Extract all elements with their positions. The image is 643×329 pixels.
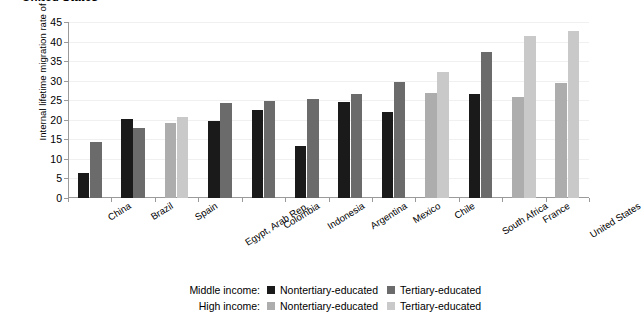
y-tick-mark [64,159,68,160]
gridline [69,61,589,62]
legend-row: Middle income:Nontertiary-educatedTertia… [0,282,599,298]
x-tick-label: China [106,200,133,223]
bar-nontertiary [425,93,437,198]
gridline [69,178,589,179]
bar-tertiary [90,142,102,198]
y-tick-label: 30 [50,75,62,86]
legend-swatch-icon [387,286,395,294]
y-tick-label: 40 [50,36,62,47]
gridline [69,81,589,82]
bar-tertiary [351,94,363,198]
legend-item[interactable]: Tertiary-educated [387,285,481,296]
gridline [69,159,589,160]
y-tick-mark [64,178,68,179]
bar-tertiary [524,36,536,198]
bar-tertiary [437,72,449,198]
bar-nontertiary [338,102,350,198]
bar-nontertiary [382,112,394,198]
x-tick-label: Indonesia [325,200,366,231]
y-tick-label: 5 [56,173,62,184]
legend-item[interactable]: Nontertiary-educated [267,301,378,312]
y-tick-label: 20 [50,115,62,126]
x-tick-label: Mexico [410,200,442,225]
y-tick-mark [64,100,68,101]
x-tick-label: United States [588,200,643,240]
bar-tertiary [568,31,580,198]
bar-tertiary [394,82,406,198]
y-tick-label: 0 [56,193,62,204]
legend-group-label: High income: [168,300,260,312]
x-tick-label: Argentina [368,200,409,231]
legend-item-label: Tertiary-educated [400,301,481,312]
bar-nontertiary [165,123,177,198]
y-tick-mark [64,22,68,23]
bar-nontertiary [121,119,133,198]
bar-tertiary [177,117,189,198]
legend-item-label: Nontertiary-educated [280,301,378,312]
y-tick-mark [64,139,68,140]
x-tick-label: Brazil [149,200,175,222]
bar-nontertiary [208,121,220,198]
bar-tertiary [307,99,319,198]
y-axis-line [68,22,69,198]
y-tick-label: 35 [50,56,62,67]
bar-nontertiary [555,83,567,198]
legend-item-label: Tertiary-educated [400,285,481,296]
gridline [69,139,589,140]
bar-tertiary [133,128,145,198]
y-tick-mark [64,81,68,82]
y-tick-mark [64,120,68,121]
legend-swatch-icon [387,302,395,310]
legend-swatch-icon [267,302,275,310]
x-axis-labels: ChinaBrazilSpainEgypt, Arab Rep.Colombia… [68,200,589,270]
bar-nontertiary [469,94,481,198]
legend-row: High income:Nontertiary-educatedTertiary… [0,298,599,314]
bar-tertiary [481,52,493,198]
gridline [69,22,589,23]
bar-nontertiary [295,146,307,198]
plot-area: 051015202530354045 [68,22,589,198]
bar-nontertiary [78,173,90,198]
x-tick-mark [589,198,590,202]
plot-inner: 051015202530354045 [68,22,589,198]
legend-group-label: Middle income: [168,284,260,296]
x-tick-label: Chile [452,200,476,221]
bar-tertiary [264,101,276,198]
bar-nontertiary [252,110,264,198]
gridline [69,120,589,121]
legend-item-label: Nontertiary-educated [280,285,378,296]
y-tick-label: 45 [50,17,62,28]
y-tick-label: 15 [50,134,62,145]
gridline [69,42,589,43]
y-tick-label: 25 [50,95,62,106]
legend-item[interactable]: Nontertiary-educated [267,285,378,296]
x-tick-label: Spain [192,200,219,222]
bar-tertiary [220,103,232,198]
gridline [69,100,589,101]
legend-item[interactable]: Tertiary-educated [387,301,481,312]
y-tick-label: 10 [50,154,62,165]
legend-swatch-icon [267,286,275,294]
y-axis-title-line: Internal lifetime migration rate of the … [37,0,48,140]
y-axis-title-text: Internal lifetime migration rate of the … [37,0,49,140]
y-tick-mark [64,61,68,62]
bar-nontertiary [512,97,524,198]
chart-legend: Middle income:Nontertiary-educatedTertia… [0,282,599,314]
y-tick-mark [64,42,68,43]
x-tick-label: Egypt, Arab Rep. [243,200,310,248]
